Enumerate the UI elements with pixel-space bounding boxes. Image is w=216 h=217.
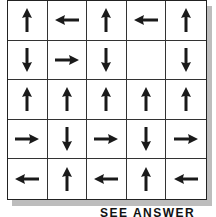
arrow-up-icon xyxy=(54,166,80,192)
arrow-up-icon xyxy=(93,7,119,33)
grid-cell xyxy=(48,1,88,41)
grid-cell xyxy=(48,41,88,81)
grid-cell xyxy=(166,80,206,120)
grid-cell xyxy=(127,120,167,160)
grid-cell xyxy=(166,159,206,199)
grid-cell xyxy=(48,80,88,120)
arrow-up-icon xyxy=(133,86,159,112)
grid-cell xyxy=(166,120,206,160)
grid-cell xyxy=(8,41,48,81)
arrow-up-icon xyxy=(133,166,159,192)
grid-cell xyxy=(166,41,206,81)
grid-cell xyxy=(8,80,48,120)
grid-cell xyxy=(87,41,127,81)
arrow-right-icon xyxy=(93,126,119,152)
grid-cell xyxy=(48,159,88,199)
arrow-grid xyxy=(7,0,207,200)
grid-cell xyxy=(127,41,167,81)
grid-cell xyxy=(48,120,88,160)
grid-cell xyxy=(87,80,127,120)
arrow-left-icon xyxy=(173,166,199,192)
grid-cell xyxy=(127,159,167,199)
grid-cell xyxy=(87,159,127,199)
grid-cell xyxy=(127,1,167,41)
see-answer-text: SEE ANSWER xyxy=(100,206,195,217)
grid-cell xyxy=(8,120,48,160)
arrow-right-icon xyxy=(173,126,199,152)
arrow-left-icon xyxy=(14,166,40,192)
arrow-up-icon xyxy=(173,7,199,33)
grid-cell xyxy=(8,159,48,199)
arrow-left-icon xyxy=(54,7,80,33)
arrow-right-icon xyxy=(14,126,40,152)
grid-cell xyxy=(8,1,48,41)
arrow-up-icon xyxy=(14,7,40,33)
arrow-right-icon xyxy=(54,47,80,73)
grid-cell xyxy=(127,80,167,120)
arrow-up-icon xyxy=(173,86,199,112)
arrow-left-icon xyxy=(133,7,159,33)
grid-cell xyxy=(87,120,127,160)
arrow-down-icon xyxy=(93,47,119,73)
arrow-up-icon xyxy=(14,86,40,112)
grid-cell xyxy=(87,1,127,41)
arrow-down-icon xyxy=(14,47,40,73)
arrow-up-icon xyxy=(54,86,80,112)
grid-cell xyxy=(166,1,206,41)
arrow-left-icon xyxy=(93,166,119,192)
arrow-up-icon xyxy=(93,86,119,112)
arrow-down-icon xyxy=(54,126,80,152)
arrow-down-icon xyxy=(133,126,159,152)
arrow-down-icon xyxy=(173,47,199,73)
